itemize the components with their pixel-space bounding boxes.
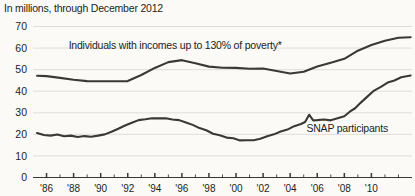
y-tick-label: 10 [15, 150, 27, 162]
x-axis-tick-labels: '86'88'90'92'94'96'98'00'02'04'06'08'10 [40, 183, 378, 194]
x-tick-label: '98 [202, 183, 215, 194]
x-tick-label: '10 [365, 183, 378, 194]
series-label-poverty: Individuals with incomes up to 130% of p… [69, 39, 282, 51]
x-tick-label: '02 [257, 183, 270, 194]
x-tick-label: '94 [148, 183, 161, 194]
x-tick-label: '88 [67, 183, 80, 194]
y-tick-label: 70 [15, 20, 27, 32]
x-tick-label: '92 [121, 183, 134, 194]
line-chart: 010203040506070 '86'88'90'92'94'96'98'00… [0, 0, 415, 196]
y-tick-label: 50 [15, 63, 27, 75]
series-annotations: Individuals with incomes up to 130% of p… [69, 39, 388, 134]
x-tick-label: '90 [94, 183, 107, 194]
y-tick-label: 30 [15, 106, 27, 118]
y-tick-label: 40 [15, 85, 27, 97]
x-tick-label: '06 [311, 183, 324, 194]
x-axis [33, 173, 412, 178]
x-tick-label: '04 [284, 183, 297, 194]
x-tick-label: '96 [175, 183, 188, 194]
chart-screenshot: In millions, through December 2012 01020… [0, 0, 415, 196]
y-tick-label: 0 [21, 171, 27, 183]
x-tick-label: '08 [338, 183, 351, 194]
y-tick-label: 60 [15, 42, 27, 54]
x-tick-label: '00 [230, 183, 243, 194]
y-axis-tick-labels: 010203040506070 [15, 20, 27, 183]
y-tick-label: 20 [15, 128, 27, 140]
series-label-snap: SNAP participants [306, 122, 388, 134]
x-tick-label: '86 [40, 183, 53, 194]
